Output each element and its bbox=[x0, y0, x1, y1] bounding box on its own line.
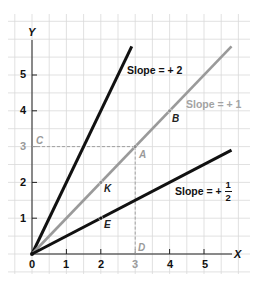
slope-1-line bbox=[32, 46, 232, 254]
fraction-numerator: 1 bbox=[226, 180, 231, 190]
slope-half-annotation: Slope = + 1 2 bbox=[175, 180, 232, 202]
point-k bbox=[99, 181, 102, 184]
point-label-b: B bbox=[172, 114, 179, 124]
point-label-d: D bbox=[138, 243, 145, 253]
y-axis-label: Y bbox=[28, 27, 35, 38]
y-tick-label-4: 4 bbox=[12, 105, 26, 116]
x-tick-label-1: 1 bbox=[63, 259, 69, 270]
x-tick-label-4: 4 bbox=[167, 259, 173, 270]
point-label-k: K bbox=[104, 184, 111, 194]
fraction-denominator: 2 bbox=[226, 193, 231, 203]
point-label-e: E bbox=[104, 220, 111, 230]
fraction-one-half: 1 2 bbox=[225, 180, 232, 202]
origin-point bbox=[30, 252, 34, 256]
x-tick-label-5: 5 bbox=[202, 259, 208, 270]
x-tick-label-3: 3 bbox=[132, 259, 138, 270]
point-label-c: C bbox=[36, 136, 43, 146]
slope-2-annotation: Slope = + 2 bbox=[127, 65, 182, 76]
slope-2-line bbox=[32, 46, 132, 254]
y-tick-label-3: 3 bbox=[12, 141, 26, 152]
point-a bbox=[134, 145, 137, 148]
y-tick-label-1: 1 bbox=[12, 213, 26, 224]
y-tick-label-5: 5 bbox=[12, 69, 26, 80]
y-tick-label-2: 2 bbox=[12, 177, 26, 188]
slope-1-annotation: Slope = + 1 bbox=[186, 99, 241, 110]
x-axis-label: X bbox=[234, 249, 241, 260]
x-tick-label-0: 0 bbox=[29, 259, 35, 270]
point-e bbox=[99, 217, 102, 220]
slope-half-line bbox=[32, 150, 232, 254]
x-tick-label-2: 2 bbox=[98, 259, 104, 270]
slope-lines bbox=[32, 46, 232, 254]
point-b bbox=[168, 109, 171, 112]
point-label-a: A bbox=[139, 150, 146, 160]
slope-half-prefix: Slope = + bbox=[175, 186, 222, 197]
